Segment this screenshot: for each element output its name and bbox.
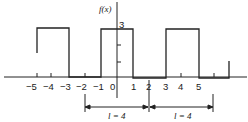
svg-text:−1: −1 [93,81,104,92]
square-wave-chart: f(x) 3 −5 −4 −3 −2 −1 0 1 2 3 4 5 l = 4 … [0,0,248,122]
svg-text:−2: −2 [76,81,87,92]
svg-text:5: 5 [196,81,201,92]
y-axis-label: f(x) [99,4,112,14]
period-label-2: l = 4 [174,111,192,121]
svg-text:−3: −3 [60,81,71,92]
svg-text:0: 0 [110,81,115,92]
y-value-label: 3 [119,19,124,30]
square-wave [37,28,229,78]
svg-text:1: 1 [131,81,136,92]
svg-text:4: 4 [178,81,183,92]
period-label-1: l = 4 [108,111,126,121]
x-tick-labels: −5 −4 −3 −2 −1 0 1 2 3 4 5 [26,81,201,92]
period-annotation [85,80,213,112]
svg-text:−5: −5 [26,81,37,92]
svg-text:3: 3 [163,81,168,92]
x-ticks [37,73,214,77]
svg-text:−4: −4 [43,81,54,92]
